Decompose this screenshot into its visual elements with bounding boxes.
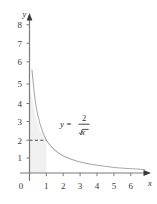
x-tick-label: 6 bbox=[129, 181, 134, 191]
area-under-curve bbox=[30, 90, 47, 174]
y-axis-label: y bbox=[22, 9, 27, 19]
y-tick-label: 6 bbox=[18, 57, 23, 67]
y-tick-label: 3 bbox=[18, 117, 23, 127]
y-tick-label: 1 bbox=[18, 153, 23, 163]
y-axis-arrow-icon bbox=[27, 13, 33, 21]
x-tick-label: 3 bbox=[78, 181, 83, 191]
y-tick-label: 5 bbox=[18, 79, 23, 89]
origin-label: 0 bbox=[19, 181, 24, 191]
equation-lhs: y bbox=[59, 119, 64, 129]
equation-equals: = bbox=[67, 119, 72, 129]
equation-radicand: x bbox=[80, 127, 85, 137]
equation-numerator: 2 bbox=[82, 113, 86, 123]
x-tick-label: 1 bbox=[44, 181, 49, 191]
y-tick-label: 8 bbox=[18, 20, 23, 30]
y-tick-label: 4 bbox=[18, 99, 23, 109]
x-tick-label: 4 bbox=[95, 181, 100, 191]
x-tick-label: 2 bbox=[61, 181, 66, 191]
x-tick-label: 5 bbox=[112, 181, 117, 191]
curve-y-equals-2-over-sqrt-x bbox=[32, 70, 145, 170]
equation-annotation: y = 2 x bbox=[59, 113, 90, 137]
chart-canvas: 8 7 6 5 4 3 2 1 1 2 3 4 5 6 0 y x y = 2 … bbox=[0, 0, 157, 204]
y-tick-label: 7 bbox=[18, 39, 23, 49]
x-axis-label: x bbox=[147, 178, 152, 188]
function-plot-figure: 8 7 6 5 4 3 2 1 1 2 3 4 5 6 0 y x y = 2 … bbox=[0, 0, 157, 204]
y-tick-label: 2 bbox=[18, 136, 23, 146]
x-axis-arrow-icon bbox=[144, 170, 152, 176]
